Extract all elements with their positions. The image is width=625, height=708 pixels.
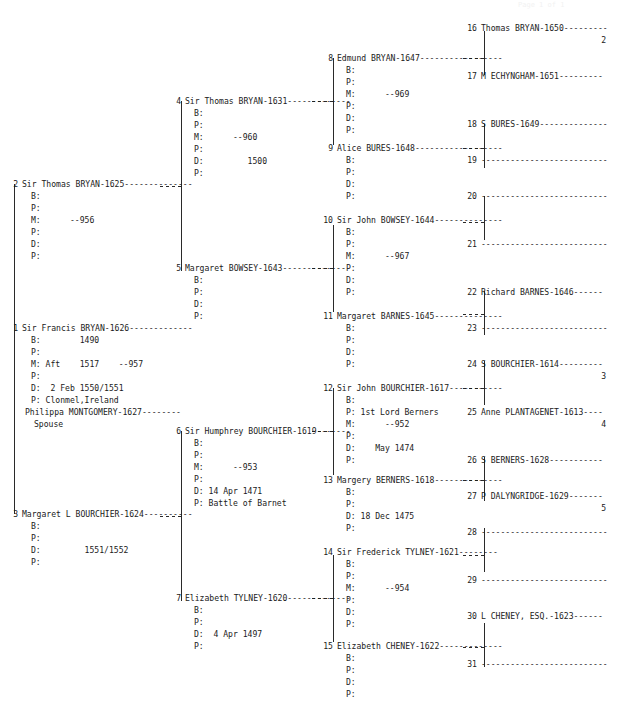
person-detail-6-p2: P: [194, 473, 204, 485]
person-name-25[interactable]: Anne PLANTAGENET-1613---- [481, 406, 603, 418]
person-name-8[interactable]: Edmund BRYAN-1647----------------- [337, 52, 503, 64]
person-detail-5-b: B: [194, 274, 204, 286]
person-name-15[interactable]: Elizabeth CHENEY-1622------------- [337, 640, 503, 652]
person-name-13[interactable]: Margery BERNERS-1618-------------- [337, 474, 503, 486]
spouse-label-1: Spouse [34, 418, 63, 430]
connector-vline-gen1 [14, 184, 15, 514]
person-name-26[interactable]: S BERNERS-1628----------- [481, 454, 603, 466]
person-name-21[interactable]: -------------------------- [481, 238, 608, 250]
person-number-4: 4 [160, 95, 181, 107]
person-detail-5-p1: P: [194, 286, 204, 298]
person-number-29: 29 [455, 574, 477, 586]
continuation-number-27: 5 [560, 502, 606, 514]
person-detail-11-b: B: [346, 322, 356, 334]
person-detail-6-d: D: 14 Apr 1471 [194, 485, 262, 497]
person-number-6: 6 [160, 425, 181, 437]
person-detail-4-p3: P: [194, 167, 204, 179]
person-name-3[interactable]: Margaret L BOURCHIER-1624---------- [22, 508, 193, 520]
person-detail-4-b: B: [194, 107, 204, 119]
person-number-31: 31 [455, 658, 477, 670]
person-name-5[interactable]: Margaret BOWSEY-1643-------------- [185, 262, 351, 274]
person-number-24: 24 [455, 358, 477, 370]
person-number-5: 5 [160, 262, 181, 274]
person-number-11: 11 [311, 310, 333, 322]
person-name-30[interactable]: L CHENEY, ESQ.-1623------ [481, 610, 603, 622]
person-detail-9-p1: P: [346, 166, 356, 178]
person-detail-2-d: D: [31, 238, 41, 250]
person-detail-8-d: D: [346, 112, 356, 124]
person-name-24[interactable]: S BOURCHIER-1614--------- [481, 358, 603, 370]
person-name-31[interactable]: -------------------------- [481, 658, 608, 670]
person-detail-12-p1: P: 1st Lord Berners [346, 406, 439, 418]
person-detail-4-p2: P: [194, 143, 204, 155]
person-detail-6-p1: P: [194, 449, 204, 461]
person-detail-8-p3: P: [346, 124, 356, 136]
person-name-20[interactable]: -------------------------- [481, 190, 608, 202]
person-detail-4-p1: P: [194, 119, 204, 131]
person-detail-10-p3: P: [346, 286, 356, 298]
person-number-9: 9 [311, 142, 333, 154]
person-detail-11-d: D: [346, 346, 356, 358]
person-name-1[interactable]: Sir Francis BRYAN-1626------------- [22, 322, 193, 334]
person-detail-11-p1: P: [346, 334, 356, 346]
page-header-faint: Page 1 of 1 [518, 1, 564, 10]
person-number-17: 17 [455, 70, 477, 82]
person-detail-7-p2: P: [194, 640, 204, 652]
person-name-17[interactable]: M ECHYNGHAM-1651--------- [481, 70, 603, 82]
person-detail-15-p2: P: [346, 688, 356, 700]
person-name-23[interactable]: -------------------------- [481, 322, 608, 334]
person-name-22[interactable]: Richard BARNES-1646------ [481, 286, 603, 298]
person-detail-5-p2: P: [194, 310, 204, 322]
person-name-10[interactable]: Sir John BOWSEY-1644-------------- [337, 214, 503, 226]
person-number-3: 3 [7, 508, 18, 520]
person-detail-6-p3: P: Battle of Barnet [194, 497, 287, 509]
person-detail-8-p1: P: [346, 76, 356, 88]
person-number-19: 19 [455, 154, 477, 166]
person-detail-10-p1: P: [346, 238, 356, 250]
person-detail-1-m: M: Aft 1517 --957 [31, 358, 143, 370]
person-number-16: 16 [455, 22, 477, 34]
person-name-4[interactable]: Sir Thomas BRYAN-1631------------- [185, 95, 351, 107]
person-detail-5-d: D: [194, 298, 204, 310]
person-name-14[interactable]: Sir Frederick TYLNEY-1621-------- [337, 546, 498, 558]
continuation-number-24: 3 [560, 370, 606, 382]
person-name-7[interactable]: Elizabeth TYLNEY-1620------------- [185, 592, 351, 604]
person-name-11[interactable]: Margaret BARNES-1645-------------- [337, 310, 503, 322]
person-name-16[interactable]: Thomas BRYAN-1650--------- [481, 22, 608, 34]
person-number-14: 14 [311, 546, 333, 558]
person-detail-13-d: D: 18 Dec 1475 [346, 510, 414, 522]
person-name-19[interactable]: -------------------------- [481, 154, 608, 166]
person-detail-9-b: B: [346, 154, 356, 166]
person-number-18: 18 [455, 118, 477, 130]
person-detail-1-b: B: 1490 [31, 334, 99, 346]
continuation-number-25: 4 [560, 418, 606, 430]
person-detail-1-p1: P: [31, 346, 41, 358]
person-number-27: 27 [455, 490, 477, 502]
person-number-13: 13 [311, 474, 333, 486]
person-name-28[interactable]: -------------------------- [481, 526, 608, 538]
person-detail-15-p1: P: [346, 664, 356, 676]
person-detail-13-b: B: [346, 486, 356, 498]
person-name-18[interactable]: S BURES-1649-------------- [481, 118, 608, 130]
person-detail-2-p3: P: [31, 250, 41, 262]
person-detail-11-p2: P: [346, 358, 356, 370]
person-detail-15-b: B: [346, 652, 356, 664]
person-detail-4-d: D: 1500 [194, 155, 267, 167]
person-name-12[interactable]: Sir John BOURCHIER-1617----------- [337, 382, 503, 394]
person-name-2[interactable]: Sir Thomas BRYAN-1625-------------- [22, 178, 193, 190]
person-name-6[interactable]: Sir Humphrey BOURCHIER-1619------- [185, 425, 351, 437]
person-name-9[interactable]: Alice BURES-1648------------------ [337, 142, 503, 154]
person-number-22: 22 [455, 286, 477, 298]
person-detail-7-d: D: 4 Apr 1497 [194, 628, 262, 640]
person-number-21: 21 [455, 238, 477, 250]
spouse-name-1[interactable]: Philippa MONTGOMERY-1627-------- [25, 406, 181, 418]
person-name-27[interactable]: P DALYNGRIDGE-1629------- [481, 490, 603, 502]
person-detail-2-m: M: --956 [31, 214, 94, 226]
person-detail-12-p3: P: [346, 454, 356, 466]
person-detail-2-p2: P: [31, 226, 41, 238]
person-detail-13-p2: P: [346, 522, 356, 534]
person-detail-1-p2: P: [31, 370, 41, 382]
person-name-29[interactable]: -------------------------- [481, 574, 608, 586]
person-detail-4-m: M: --960 [194, 131, 257, 143]
person-detail-6-m: M: --953 [194, 461, 257, 473]
